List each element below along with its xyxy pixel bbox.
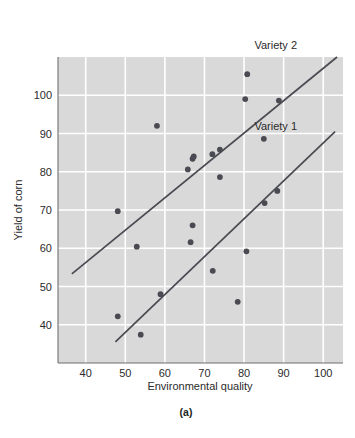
y-tick-label: 90 xyxy=(40,128,52,140)
data-point-variety-2 xyxy=(185,167,191,173)
data-point-variety-2 xyxy=(244,71,250,77)
data-point-variety-1 xyxy=(158,291,164,297)
data-point-variety-1 xyxy=(262,200,268,206)
x-axis-title: Environmental quality xyxy=(147,380,253,392)
data-point-variety-2 xyxy=(115,208,121,214)
y-tick-label: 50 xyxy=(40,281,52,293)
data-point-variety-1 xyxy=(244,248,250,254)
data-point-variety-2 xyxy=(191,154,197,160)
data-point-variety-2 xyxy=(217,147,223,153)
series-label-variety-1: Variety 1 xyxy=(254,120,297,132)
x-tick-label: 60 xyxy=(159,367,171,379)
data-point-variety-1 xyxy=(217,174,223,180)
y-tick-label: 40 xyxy=(40,319,52,331)
figure-container: 405060708090100 405060708090100 Variety … xyxy=(0,0,355,438)
panel-caption: (a) xyxy=(180,406,193,418)
data-point-variety-2 xyxy=(154,123,160,129)
y-tick-label: 80 xyxy=(40,166,52,178)
data-point-variety-1 xyxy=(188,239,194,245)
x-tick-label: 90 xyxy=(278,367,290,379)
data-point-variety-2 xyxy=(242,96,248,102)
x-tick-label: 40 xyxy=(80,367,92,379)
data-point-variety-2 xyxy=(276,98,282,104)
x-axis-tick-labels: 405060708090100 xyxy=(80,367,333,379)
data-point-variety-1 xyxy=(190,222,196,228)
data-point-variety-2 xyxy=(261,136,267,142)
y-tick-label: 60 xyxy=(40,242,52,254)
x-tick-label: 100 xyxy=(314,367,332,379)
y-axis-title: Yield of corn xyxy=(12,180,24,241)
data-point-variety-1 xyxy=(138,332,144,338)
x-tick-label: 80 xyxy=(238,367,250,379)
data-point-variety-1 xyxy=(235,299,241,305)
y-axis-tick-labels: 405060708090100 xyxy=(34,89,52,331)
data-point-variety-2 xyxy=(209,151,215,157)
data-point-variety-1 xyxy=(134,244,140,250)
data-point-variety-1 xyxy=(274,188,280,194)
y-tick-label: 100 xyxy=(34,89,52,101)
data-point-variety-1 xyxy=(115,313,121,319)
series-label-variety-2: Variety 2 xyxy=(254,39,297,51)
x-tick-label: 70 xyxy=(198,367,210,379)
data-point-variety-1 xyxy=(210,268,216,274)
x-tick-label: 50 xyxy=(119,367,131,379)
scatter-chart: 405060708090100 405060708090100 Variety … xyxy=(0,0,355,438)
y-tick-label: 70 xyxy=(40,204,52,216)
